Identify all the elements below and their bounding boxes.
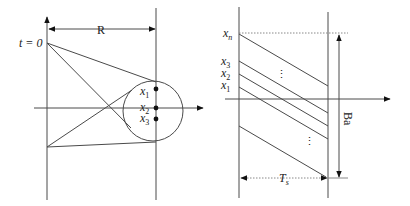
point-x1 (154, 87, 159, 92)
ray-bottom-outer (47, 142, 156, 147)
ray-bottom-cross (47, 90, 132, 147)
left-panel (34, 8, 203, 200)
ray-top-cross (47, 43, 131, 128)
t0-label: t = 0 (19, 36, 42, 50)
x1-label: x1 (139, 84, 149, 100)
r-label: R (97, 23, 105, 37)
diag-x2 (239, 74, 328, 126)
xn-label: xn (222, 26, 232, 42)
ba-label: Ba (341, 112, 355, 126)
diagram-canvas: R t = 0 x1 x2 x3 xn x3 x2 x1 ⋮ ⋮ Ba Ts (0, 0, 410, 206)
point-labels: x1 x2 x3 (139, 84, 149, 127)
diag-bottom (239, 126, 326, 177)
diag-x1 (239, 87, 328, 139)
point-x2 (154, 106, 159, 111)
ts-label: Ts (279, 171, 289, 187)
ellipsis-lower: ⋮ (304, 135, 315, 147)
ray-top-outer (47, 43, 156, 82)
ellipsis-upper: ⋮ (276, 68, 287, 80)
point-x3 (154, 117, 159, 122)
level-labels: xn x3 x2 x1 (220, 26, 232, 94)
right-panel (225, 7, 390, 198)
